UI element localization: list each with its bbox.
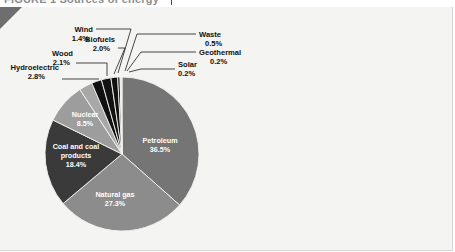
slice-label-nuclear-name: Nuclear (72, 110, 99, 119)
callout-label-biofuels-name: Biofuels (85, 35, 115, 44)
slice-label-coal-value: 18.4% (66, 160, 87, 169)
callout-label-geothermal-value: 0.2% (210, 57, 228, 66)
clipped-title-strip: FIGURE 1 Sources of energy (0, 0, 455, 7)
slice-label-natural-gas-name: Natural gas (95, 190, 134, 199)
leader-line-wood (76, 63, 107, 76)
slice-label-petroleum-value: 36.5% (150, 145, 171, 154)
slice-label-coal-name-2: products (61, 151, 92, 160)
callout-label-wind-name: Wind (75, 25, 94, 34)
slice-label-nuclear-value: 8.5% (77, 119, 94, 128)
callout-label-hydroelectric-name: Hydroelectric (10, 63, 59, 72)
figure-panel: Waste 0.5% Geothermal 0.2% Solar 0.2% Wi… (0, 7, 453, 251)
leader-line-solar (129, 69, 175, 72)
callout-label-waste-value: 0.5% (205, 39, 223, 48)
slice-label-natural-gas-value: 27.3% (105, 199, 126, 208)
figure-title: FIGURE 1 Sources of energy (4, 0, 159, 5)
slice-label-petroleum-name: Petroleum (142, 136, 177, 145)
callout-label-geothermal-name: Geothermal (199, 48, 241, 57)
leader-line-biofuels (114, 48, 125, 74)
slice-label-coal-name-1: Coal and coal (53, 142, 100, 151)
pie-chart: Waste 0.5% Geothermal 0.2% Solar 0.2% Wi… (0, 7, 452, 250)
pie-chart-svg: Waste 0.5% Geothermal 0.2% Solar 0.2% Wi… (0, 7, 452, 250)
title-tick-mark (171, 0, 172, 5)
callout-labels-group: Waste 0.5% Geothermal 0.2% Solar 0.2% Wi… (10, 25, 241, 81)
callout-label-solar-name: Solar (178, 60, 197, 69)
callout-label-hydroelectric-value: 2.8% (28, 72, 46, 81)
callout-label-waste-name: Waste (199, 30, 221, 39)
callout-label-wood-name: Wood (52, 49, 73, 58)
callout-label-biofuels-value: 2.0% (93, 44, 111, 53)
callout-label-solar-value: 0.2% (178, 69, 196, 78)
